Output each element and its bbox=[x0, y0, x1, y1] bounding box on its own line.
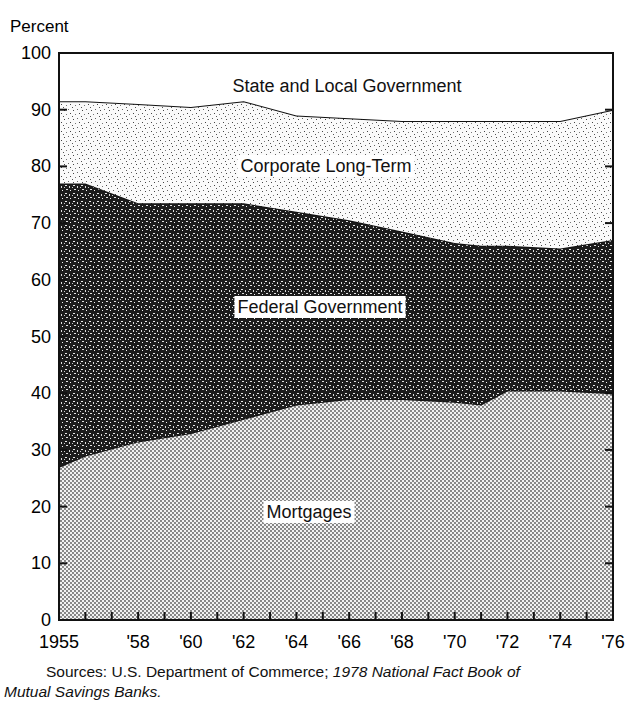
source-prefix: Sources: U.S. Department of Commerce; bbox=[46, 663, 333, 680]
source-italic-2: Mutual Savings Banks. bbox=[4, 683, 162, 700]
y-tick-label: 0 bbox=[41, 610, 51, 630]
x-tick-label: 1955 bbox=[39, 632, 79, 652]
y-tick-label: 90 bbox=[31, 100, 51, 120]
y-tick-label: 20 bbox=[31, 497, 51, 517]
y-tick-label: 30 bbox=[31, 440, 51, 460]
y-tick-label: 10 bbox=[31, 553, 51, 573]
x-tick-label: '62 bbox=[232, 632, 255, 652]
x-tick-label: '72 bbox=[496, 632, 519, 652]
x-tick-label: '66 bbox=[337, 632, 360, 652]
y-tick-label: 50 bbox=[31, 327, 51, 347]
y-tick-label: 80 bbox=[31, 156, 51, 176]
label-federal-government: Federal Government bbox=[237, 297, 402, 317]
y-axis-label: Percent bbox=[10, 17, 69, 36]
y-tick-label: 60 bbox=[31, 270, 51, 290]
x-tick-label: '70 bbox=[443, 632, 466, 652]
x-tick-label: '68 bbox=[390, 632, 413, 652]
y-tick-label: 70 bbox=[31, 213, 51, 233]
x-tick-label: '76 bbox=[601, 632, 624, 652]
x-tick-label: '74 bbox=[549, 632, 572, 652]
y-tick-label: 40 bbox=[31, 383, 51, 403]
label-corporate-long-term: Corporate Long-Term bbox=[240, 156, 411, 176]
stacked-area-chart: 01020304050607080901001955'58'60'62'64'6… bbox=[0, 0, 638, 660]
label-mortgages: Mortgages bbox=[266, 502, 351, 522]
y-tick-label: 100 bbox=[21, 43, 51, 63]
source-note: Sources: U.S. Department of Commerce; 19… bbox=[4, 662, 634, 702]
source-italic-1: 1978 National Fact Book of bbox=[333, 663, 520, 680]
x-tick-label: '60 bbox=[179, 632, 202, 652]
label-state-local-government: State and Local Government bbox=[232, 76, 461, 96]
plot-areas bbox=[59, 53, 613, 620]
x-tick-label: '58 bbox=[126, 632, 149, 652]
x-tick-label: '64 bbox=[285, 632, 308, 652]
